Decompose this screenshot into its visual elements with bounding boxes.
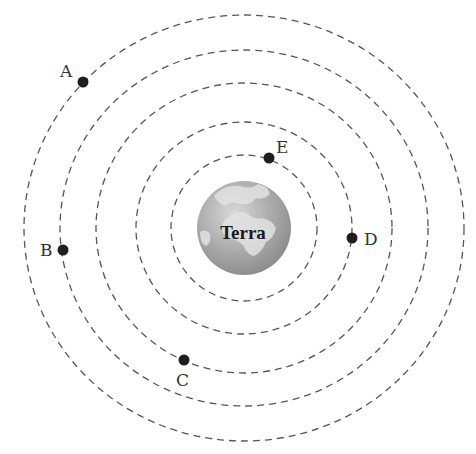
orbit-diagram: Terra ABCDE bbox=[0, 0, 476, 454]
body-dot-icon bbox=[347, 233, 358, 244]
body-a: A bbox=[59, 61, 89, 88]
body-label: A bbox=[59, 61, 73, 81]
body-label: D bbox=[364, 229, 378, 249]
earth-globe: Terra bbox=[197, 181, 291, 275]
body-dot-icon bbox=[179, 355, 190, 366]
body-c: C bbox=[176, 355, 190, 391]
body-dot-icon bbox=[78, 77, 89, 88]
earth-label: Terra bbox=[220, 222, 266, 243]
body-b: B bbox=[40, 240, 69, 260]
body-e: E bbox=[264, 137, 289, 164]
body-label: E bbox=[276, 137, 288, 157]
body-dot-icon bbox=[264, 153, 275, 164]
body-label: B bbox=[40, 240, 53, 260]
body-label: C bbox=[176, 370, 189, 390]
body-dot-icon bbox=[58, 245, 69, 256]
body-d: D bbox=[347, 229, 378, 249]
